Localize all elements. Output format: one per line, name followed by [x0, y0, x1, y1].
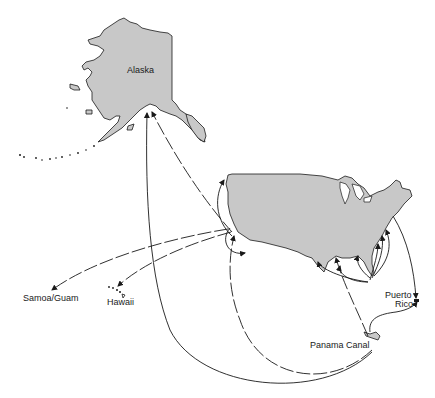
alaska-landmass — [19, 18, 206, 161]
label-puerto-rico-line2: Rico — [395, 299, 413, 309]
label-panama-canal: Panama Canal — [310, 340, 370, 350]
label-alaska: Alaska — [127, 65, 154, 75]
label-hawaii: Hawaii — [107, 297, 134, 307]
label-samoa-guam: Samoa/Guam — [23, 293, 79, 303]
puerto-rico-island — [414, 299, 419, 302]
aleutian-islands — [19, 107, 95, 161]
contiguous-us-landmass — [226, 174, 412, 276]
shipping-routes-map — [0, 0, 435, 398]
